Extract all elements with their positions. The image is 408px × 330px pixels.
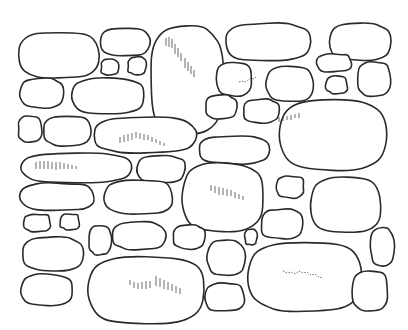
stones-group <box>18 23 394 324</box>
stone <box>216 62 251 96</box>
stone <box>88 257 204 324</box>
stone <box>24 214 51 232</box>
stone <box>101 59 119 75</box>
stone <box>128 57 147 75</box>
stone <box>261 209 302 239</box>
stone <box>207 240 246 275</box>
stone <box>226 23 311 61</box>
stone <box>279 100 386 171</box>
stone <box>352 271 387 311</box>
stone <box>113 222 167 250</box>
stone <box>60 214 79 230</box>
stone <box>20 78 64 108</box>
stone <box>94 117 196 153</box>
stone <box>244 99 280 123</box>
stone <box>137 156 186 183</box>
stone <box>316 54 351 72</box>
stone <box>18 116 42 142</box>
stone <box>199 136 269 164</box>
stone <box>276 176 304 198</box>
stone <box>325 76 347 94</box>
stone <box>19 33 100 78</box>
stone <box>182 163 263 232</box>
stone <box>248 243 362 312</box>
stone <box>104 180 173 214</box>
stone-wall-drawing <box>0 0 408 330</box>
stone <box>311 177 381 232</box>
stone <box>370 227 394 266</box>
stone <box>89 226 112 255</box>
stone <box>266 66 314 101</box>
stone <box>173 225 205 250</box>
stone <box>206 95 237 119</box>
stone <box>205 283 245 311</box>
stone <box>21 274 72 306</box>
stone <box>358 62 391 97</box>
stone <box>44 116 91 146</box>
stone <box>23 237 84 271</box>
stone <box>72 78 144 114</box>
stone <box>244 229 257 245</box>
stone-wall-svg <box>0 0 408 330</box>
stone <box>100 28 150 55</box>
stone <box>20 183 94 211</box>
